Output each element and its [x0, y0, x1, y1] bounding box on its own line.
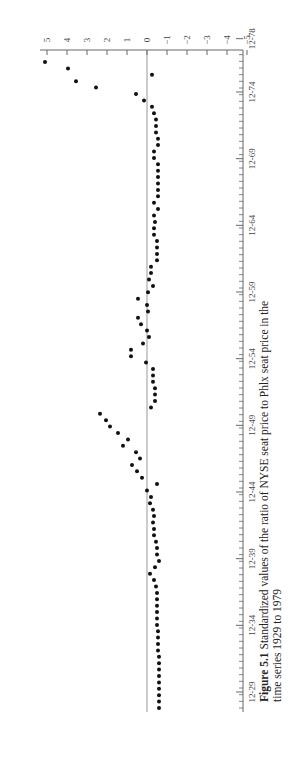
- svg-text:−1: −1: [162, 35, 172, 45]
- caption-label: Figure 5.1: [258, 652, 270, 702]
- data-points: [43, 60, 161, 710]
- svg-text:4: 4: [62, 37, 72, 42]
- caption-text-line2: time series 1929 to 1979: [271, 0, 284, 702]
- svg-text:5: 5: [42, 37, 52, 42]
- caption-text: Standardized values of the ratio of NYSE…: [258, 301, 270, 650]
- svg-text:12-64: 12-64: [247, 214, 257, 235]
- svg-text:12-69: 12-69: [247, 148, 257, 169]
- svg-text:−2: −2: [182, 35, 192, 45]
- scatter-chart: 543210−1−2−3−4−512-2912-3412-3912-4412-4…: [0, 0, 298, 759]
- svg-text:0: 0: [142, 37, 152, 42]
- svg-text:2: 2: [102, 38, 112, 43]
- svg-text:12-29: 12-29: [247, 681, 257, 702]
- svg-text:12-59: 12-59: [247, 281, 257, 302]
- svg-text:12-74: 12-74: [247, 81, 257, 102]
- svg-text:12-49: 12-49: [247, 414, 257, 435]
- axes: 543210−1−2−3−4−512-2912-3412-3912-4412-4…: [40, 28, 257, 712]
- svg-text:12-44: 12-44: [247, 481, 257, 502]
- svg-text:12-78: 12-78: [247, 28, 257, 49]
- svg-text:1: 1: [122, 38, 132, 43]
- svg-text:12-39: 12-39: [247, 548, 257, 569]
- svg-text:−4: −4: [222, 35, 232, 45]
- svg-text:12-54: 12-54: [247, 348, 257, 369]
- svg-text:3: 3: [82, 37, 92, 42]
- figure-caption: Figure 5.1 Standardized values of the ra…: [258, 0, 284, 759]
- svg-text:12-34: 12-34: [247, 614, 257, 635]
- svg-text:−3: −3: [202, 35, 212, 45]
